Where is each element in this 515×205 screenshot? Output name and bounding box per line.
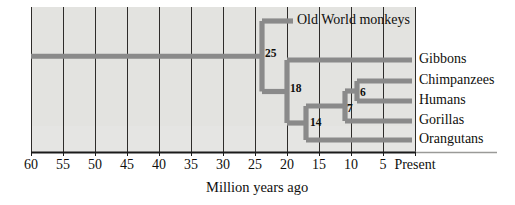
node-divergence-label-14: 14 bbox=[310, 117, 322, 129]
node-divergence-label-7: 7 bbox=[347, 103, 353, 115]
x-axis-title: Million years ago bbox=[206, 180, 308, 195]
taxon-label-humans: Humans bbox=[419, 93, 466, 107]
taxon-label-gorillas: Gorillas bbox=[419, 113, 464, 127]
node-divergence-label-25: 25 bbox=[265, 48, 277, 60]
node-divergence-label-6: 6 bbox=[360, 87, 366, 99]
node-divergence-label-18: 18 bbox=[290, 83, 302, 95]
taxon-label-orangutans: Orangutans bbox=[419, 132, 484, 146]
taxon-label-chimpanzees: Chimpanzees bbox=[419, 73, 494, 87]
phylogenetic-tree-figure: 60555045403530252015105Present Million y… bbox=[0, 0, 515, 205]
taxon-label-gibbons: Gibbons bbox=[419, 52, 466, 66]
taxon-label-old-world-monkeys: Old World monkeys bbox=[297, 13, 410, 27]
tick-label-present: Present bbox=[385, 158, 445, 172]
